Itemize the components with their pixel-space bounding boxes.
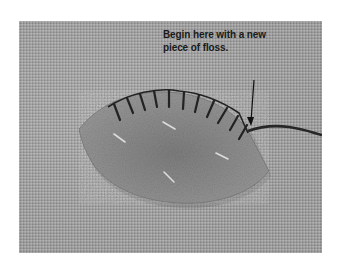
caption-line-2: piece of floss. bbox=[163, 41, 303, 54]
caption-line-1: Begin here with a new bbox=[163, 28, 303, 41]
stitching-photo bbox=[19, 21, 322, 253]
annotation-caption: Begin here with a new piece of floss. bbox=[163, 28, 303, 54]
leaf-illustration bbox=[19, 21, 322, 253]
